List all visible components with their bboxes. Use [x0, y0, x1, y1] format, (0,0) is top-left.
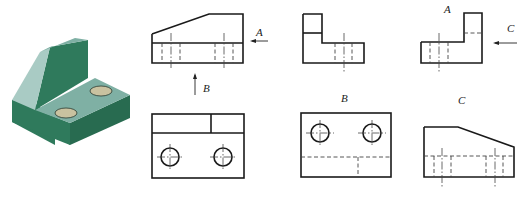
isometric-model [12, 38, 130, 145]
view-label-C: C [458, 94, 466, 106]
drawing-canvas: A B A C B [0, 0, 522, 198]
arrow-label-C: C [507, 22, 515, 34]
main-view: A B [152, 14, 268, 95]
view-B: B [301, 92, 391, 177]
view-label-A: A [443, 3, 451, 15]
top-view [152, 114, 244, 178]
arrow-label-A: A [255, 26, 263, 38]
left-view [303, 14, 364, 73]
view-C: C [424, 94, 514, 187]
view-A: A C [421, 3, 517, 73]
view-label-B: B [341, 92, 348, 104]
arrow-label-B: B [203, 82, 210, 94]
